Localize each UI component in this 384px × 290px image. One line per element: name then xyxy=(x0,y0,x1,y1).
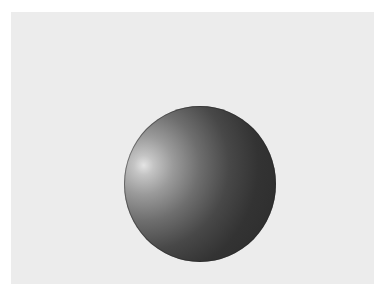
shaded-sphere xyxy=(124,106,276,262)
